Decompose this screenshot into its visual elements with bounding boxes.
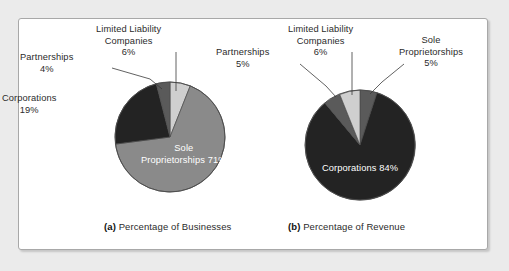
pie-chart-businesses: [112, 52, 225, 192]
label-value: 5%: [399, 58, 463, 70]
label-value: 4%: [20, 64, 73, 76]
leader-line-partnerships-b: [300, 64, 336, 97]
label-limited-liability-companies-a: Limited Liability Companies 6%: [96, 24, 161, 59]
label-name: Corporations: [2, 93, 56, 103]
caption-chart-a: (a) Percentage of Businesses: [104, 221, 231, 232]
label-name-line2: Proprietorships: [141, 155, 205, 165]
label-name-line1: Limited Liability: [288, 24, 353, 34]
label-sole-proprietorships-b: Sole Proprietorships 5%: [399, 35, 463, 70]
pie-chart-revenue: [300, 52, 415, 200]
label-name-line1: Limited Liability: [96, 24, 161, 34]
label-value: 6%: [96, 47, 161, 59]
label-corporations-a: Corporations 19%: [2, 93, 56, 116]
caption-marker: (a): [104, 221, 116, 232]
label-partnerships-b: Partnerships 5%: [216, 47, 269, 70]
label-name: Partnerships: [20, 52, 73, 62]
label-sole-proprietorships-a: Sole Proprietorships 71%: [141, 143, 227, 166]
caption-chart-b: (b) Percentage of Revenue: [288, 221, 405, 232]
label-name-line2: Companies: [105, 36, 153, 46]
label-value: 6%: [288, 47, 353, 59]
caption-marker: (b): [288, 221, 300, 232]
label-limited-liability-companies-b: Limited Liability Companies 6%: [288, 24, 353, 59]
label-name-line1: Sole: [174, 143, 193, 153]
label-name-line2: Companies: [297, 36, 345, 46]
label-name: Corporations: [322, 163, 376, 173]
label-name-line1: Sole: [422, 35, 441, 45]
label-partnerships-a: Partnerships 4%: [20, 52, 73, 75]
caption-text: Percentage of Revenue: [303, 221, 405, 232]
label-value: 19%: [2, 105, 56, 117]
label-name-line2: Proprietorships: [399, 47, 463, 57]
label-value: 84%: [379, 163, 398, 173]
label-value: 5%: [216, 59, 269, 71]
label-value: 71%: [208, 155, 227, 165]
label-name: Partnerships: [216, 47, 269, 57]
label-corporations-b: Corporations 84%: [322, 163, 398, 175]
caption-text: Percentage of Businesses: [119, 221, 232, 232]
